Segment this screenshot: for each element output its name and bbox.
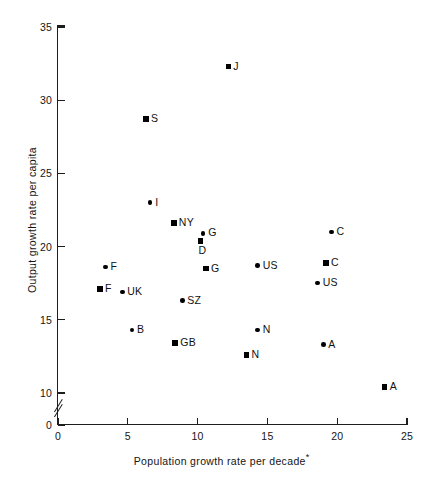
data-point-label: GB [180,336,196,348]
y-tick-label-10: 10 [22,387,52,399]
marker-circle-icon [255,263,260,268]
marker-square-icon [226,64,232,70]
data-point-label: A [390,380,397,392]
data-point-label: A [328,338,335,350]
y-axis-title: Output growth rate per capita [26,100,38,340]
data-point-label: N [251,348,259,360]
marker-square-icon [97,286,103,292]
y-tick-10 [58,392,65,393]
marker-circle-icon [321,342,326,347]
marker-circle-icon [120,290,125,295]
marker-circle-icon [201,231,206,236]
data-point-label: D [198,244,206,256]
x-tick-10 [197,418,198,425]
data-point-label: N [263,323,271,335]
y-tick-0 [58,424,65,425]
marker-circle-icon [315,281,320,286]
y-tick-15 [58,319,65,320]
scatter-plot-figure: 0101520253035 0510152025 JSINYGDCFGUSCFU… [0,0,443,477]
x-tick-15 [267,418,268,425]
marker-square-icon [382,384,388,390]
x-tick-0 [57,418,58,425]
marker-square-icon [244,352,250,358]
y-axis-break-icon [50,398,68,418]
data-point-label: F [105,282,112,294]
x-axis-line [57,424,408,425]
marker-square-icon [171,220,177,226]
data-point-label: C [337,225,345,237]
marker-circle-icon [148,200,153,205]
y-axis-line [57,25,58,425]
marker-square-icon [143,116,149,122]
x-tick-5 [127,418,128,425]
marker-square-icon [203,266,209,272]
x-tick-25 [406,418,407,425]
data-point-label: NY [179,216,194,228]
footnote-asterisk: * [306,452,310,462]
data-point-label: SZ [187,294,201,306]
data-point-label: UK [127,285,142,297]
marker-square-icon [323,260,329,266]
data-point-label: B [137,323,144,335]
x-tick-label-5: 5 [113,430,143,442]
x-tick-20 [337,418,338,425]
data-point-label: C [331,256,339,268]
marker-circle-icon [255,328,260,333]
x-tick-label-20: 20 [322,430,352,442]
y-tick-30 [58,100,65,101]
marker-square-icon [198,238,204,244]
x-tick-label-15: 15 [252,430,282,442]
y-tick-20 [58,246,65,247]
marker-circle-icon [329,230,334,235]
x-axis-title: Population growth rate per decade* [0,452,443,467]
data-point-label: US [323,276,338,288]
data-point-label: S [151,112,158,124]
data-point-label: I [155,196,158,208]
y-tick-25 [58,173,65,174]
data-point-label: G [211,262,219,274]
y-tick-35 [58,26,65,27]
x-tick-label-10: 10 [183,430,213,442]
data-point-label: US [263,259,278,271]
x-tick-label-25: 25 [392,430,422,442]
marker-circle-icon [103,265,108,270]
data-point-label: G [208,226,216,238]
marker-square-icon [172,340,178,346]
data-point-label: F [110,260,117,272]
x-tick-label-0: 0 [43,430,73,442]
marker-circle-icon [180,298,185,303]
y-tick-label-35: 35 [22,21,52,33]
data-point-label: J [233,60,239,72]
marker-circle-icon [130,328,135,333]
